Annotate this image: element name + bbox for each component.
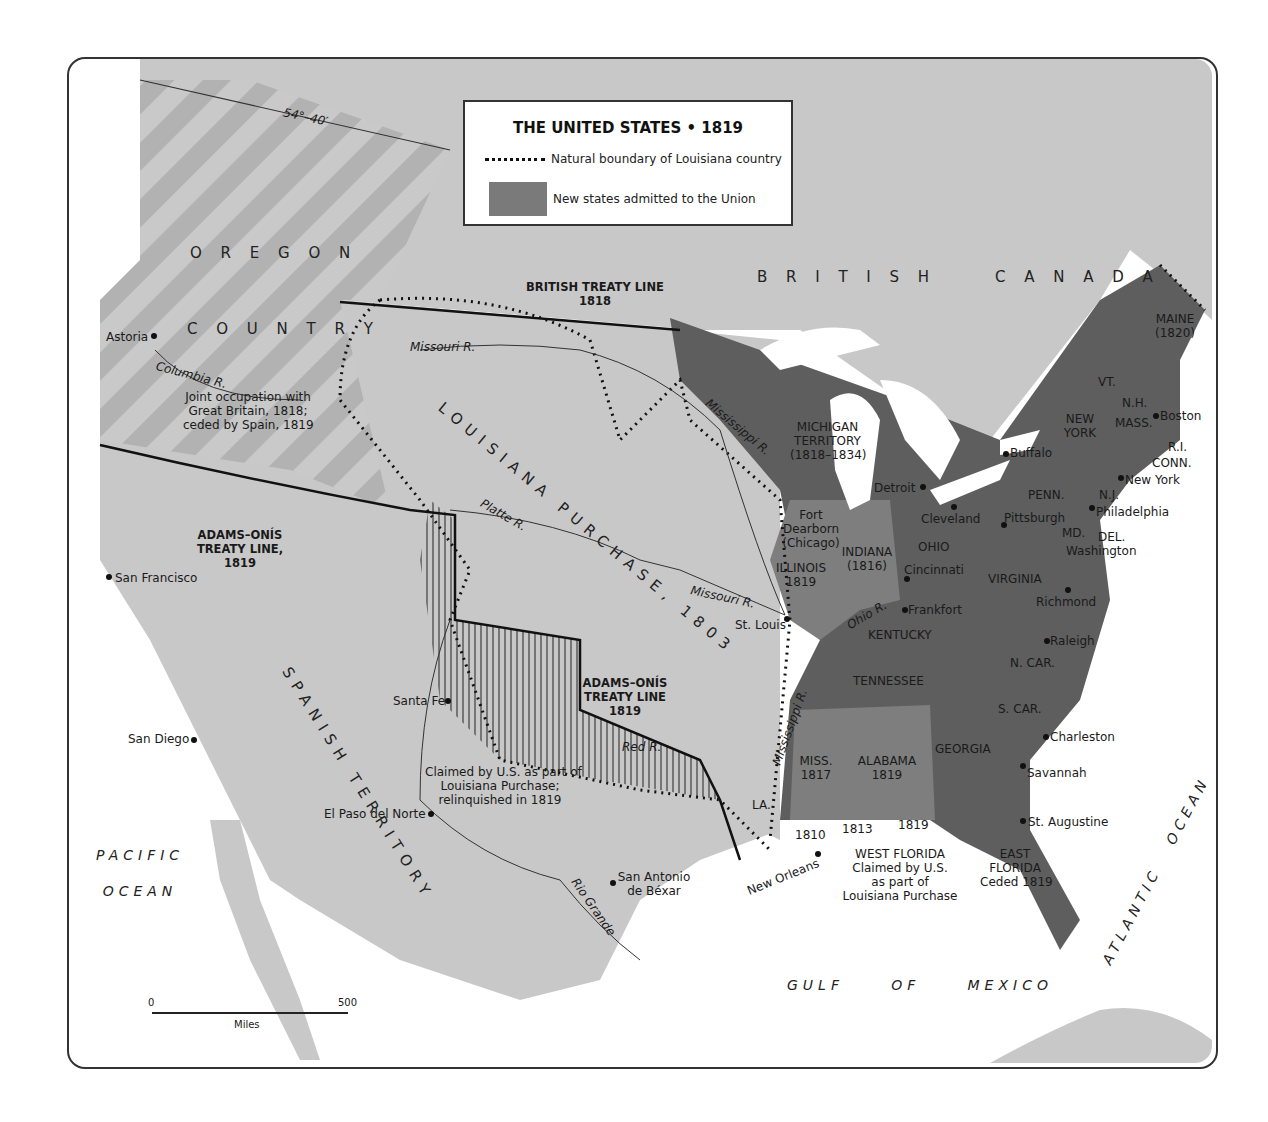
label-pacific-ocean: PACIFICOCEAN xyxy=(90,848,190,898)
city-san-francisco: San Francisco xyxy=(115,571,197,585)
city-dot xyxy=(1043,734,1049,740)
city-detroit: Detroit xyxy=(874,481,915,495)
city-dot xyxy=(445,698,451,704)
city-dot xyxy=(1118,475,1124,481)
city-richmond: Richmond xyxy=(1036,595,1096,609)
city-san-diego: San Diego xyxy=(128,732,189,746)
wf-year-1819: 1819 xyxy=(898,818,929,832)
river-red: Red R. xyxy=(622,740,661,754)
state-virginia: VIRGINIA xyxy=(988,572,1042,586)
city-dot xyxy=(151,333,157,339)
oregon-note: Joint occupation withGreat Britain, 1818… xyxy=(183,390,313,432)
state-penn: PENN. xyxy=(1028,488,1065,502)
city-dot xyxy=(1020,818,1026,824)
city-new-york: New York xyxy=(1125,473,1180,487)
state-nj: N.J. xyxy=(1099,488,1119,502)
city-el-paso: El Paso del Norte xyxy=(324,807,426,821)
city-san-antonio: San Antoniode Béxar xyxy=(614,870,694,898)
city-philadelphia: Philadelphia xyxy=(1096,505,1169,519)
city-dot xyxy=(428,811,434,817)
label-gulf-of-mexico: GULF OF MEXICO xyxy=(787,978,1053,992)
city-dot xyxy=(1003,451,1009,457)
wf-year-1813: 1813 xyxy=(842,822,873,836)
city-dot xyxy=(1065,587,1071,593)
state-tennessee: TENNESSEE xyxy=(853,674,924,688)
city-santa-fe: Santa Fe xyxy=(393,694,445,708)
label-oregon: O R E G O N xyxy=(190,246,357,260)
state-ri: R.I. xyxy=(1168,440,1187,454)
state-mass: MASS. xyxy=(1115,416,1153,430)
city-boston: Boston xyxy=(1160,409,1201,423)
state-ohio: OHIO xyxy=(918,540,949,554)
state-la: LA. xyxy=(752,798,771,812)
city-savannah: Savannah xyxy=(1027,766,1087,780)
legend-row-boundary: Natural boundary of Louisiana country xyxy=(485,152,782,166)
city-st-augustine: St. Augustine xyxy=(1028,815,1108,829)
state-del: DEL. xyxy=(1098,530,1125,544)
new-states-swatch xyxy=(489,182,547,216)
state-s-car: S. CAR. xyxy=(998,702,1042,716)
state-alabama: ALABAMA1819 xyxy=(852,754,922,782)
state-illinois: ILLINOIS1819 xyxy=(772,561,830,589)
city-dot xyxy=(1153,413,1159,419)
state-vt: VT. xyxy=(1098,375,1116,389)
city-raleigh: Raleigh xyxy=(1050,634,1095,648)
state-miss: MISS.1817 xyxy=(796,754,836,782)
scale-unit: Miles xyxy=(234,1018,260,1032)
claimed-note: Claimed by U.S. as part ofLouisiana Purc… xyxy=(425,765,575,807)
state-indiana: INDIANA(1816) xyxy=(838,545,896,573)
east-florida-note: EASTFLORIDACeded 1819 xyxy=(980,847,1050,889)
city-cincinnati: Cincinnati xyxy=(904,563,964,577)
state-kentucky: KENTUCKY xyxy=(868,628,932,642)
city-charleston: Charleston xyxy=(1050,730,1115,744)
wf-year-1810: 1810 xyxy=(795,828,826,842)
city-pittsburgh: Pittsburgh xyxy=(1004,511,1065,525)
label-michigan-territory: MICHIGANTERRITORY(1818–1834) xyxy=(790,420,865,462)
city-washington: Washington xyxy=(1066,544,1137,558)
map-legend: THE UNITED STATES • 1819 Natural boundar… xyxy=(463,100,793,226)
state-n-car: N. CAR. xyxy=(1010,656,1055,670)
scale-start: 0 xyxy=(148,996,154,1010)
city-dot xyxy=(951,504,957,510)
state-md: MD. xyxy=(1062,526,1085,540)
map-title: THE UNITED STATES • 1819 xyxy=(465,119,791,137)
city-fort-dearborn: FortDearborn(Chicago) xyxy=(776,508,846,550)
label-country: C O U N T R Y xyxy=(187,322,380,336)
city-dot xyxy=(1089,505,1095,511)
state-conn: CONN. xyxy=(1152,456,1192,470)
west-florida-note: WEST FLORIDAClaimed by U.S.as part ofLou… xyxy=(840,847,960,903)
legend-row-new-states: New states admitted to the Union xyxy=(489,182,756,216)
state-new-york: NEWYORK xyxy=(1055,412,1105,440)
state-nh: N.H. xyxy=(1122,396,1147,410)
city-dot xyxy=(920,484,926,490)
city-cleveland: Cleveland xyxy=(921,512,981,526)
state-georgia: GEORGIA xyxy=(935,742,991,756)
label-adams-onis-west: ADAMS–ONÍSTREATY LINE,1819 xyxy=(195,528,285,570)
city-dot xyxy=(1020,763,1026,769)
label-adams-onis-east: ADAMS–ONÍSTREATY LINE1819 xyxy=(580,676,670,718)
city-frankfort: Frankfort xyxy=(908,603,962,617)
scale-end: 500 xyxy=(338,996,357,1010)
label-british-canada: B R I T I S H C A N A D A xyxy=(757,270,1160,284)
label-british-treaty-line: BRITISH TREATY LINE1818 xyxy=(525,280,665,308)
city-astoria: Astoria xyxy=(106,330,148,344)
city-dot xyxy=(191,737,197,743)
dotted-line-icon xyxy=(485,158,545,161)
city-dot xyxy=(106,574,112,580)
state-maine: MAINE(1820) xyxy=(1150,312,1200,340)
river-missouri-upper: Missouri R. xyxy=(410,340,475,354)
city-buffalo: Buffalo xyxy=(1010,446,1052,460)
city-st-louis: St. Louis xyxy=(735,618,786,632)
